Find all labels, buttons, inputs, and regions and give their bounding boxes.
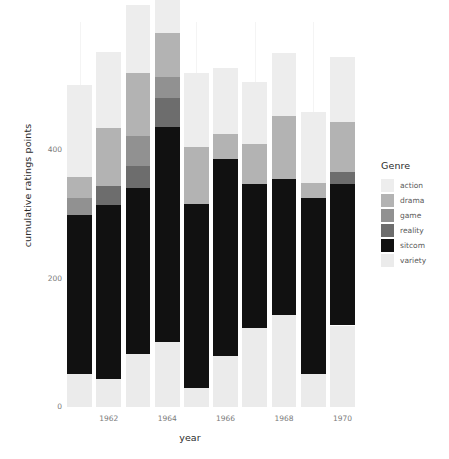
legend-item-reality[interactable]: reality (381, 223, 449, 238)
bar-segment-drama[interactable] (242, 144, 267, 184)
bar-segment-drama[interactable] (184, 147, 209, 204)
bar-segment-variety[interactable] (272, 315, 297, 407)
legend-item-variety[interactable]: variety (381, 253, 449, 268)
bar-segment-sitcom[interactable] (213, 159, 238, 357)
bar-segment-drama[interactable] (213, 134, 238, 158)
bar-segment-reality[interactable] (330, 172, 355, 185)
legend-label: sitcom (400, 241, 425, 250)
bar-segment-reality[interactable] (155, 98, 180, 128)
bar-segment-variety[interactable] (67, 374, 92, 407)
bar-segment-drama[interactable] (330, 122, 355, 171)
legend: Genre actiondramagamerealitysitcomvariet… (381, 160, 449, 268)
y-axis-title: cumulative ratings points (22, 111, 33, 261)
bar-segment-variety[interactable] (301, 374, 326, 407)
bar-segment-variety[interactable] (242, 328, 267, 407)
bar-segment-sitcom[interactable] (272, 179, 297, 315)
bar-stack[interactable] (184, 22, 209, 407)
x-tick-label: 1966 (206, 414, 246, 423)
bar-stack[interactable] (272, 22, 297, 407)
legend-item-game[interactable]: game (381, 208, 449, 223)
legend-items: actiondramagamerealitysitcomvariety (381, 178, 449, 268)
bar-segment-action[interactable] (184, 73, 209, 147)
x-tick-label: 1964 (147, 414, 187, 423)
bar-segment-variety[interactable] (330, 326, 355, 407)
bar-segment-drama[interactable] (96, 128, 121, 186)
bar-stack[interactable] (96, 22, 121, 407)
legend-label: variety (400, 256, 426, 265)
bar-stack[interactable] (126, 22, 151, 407)
bar-stack[interactable] (242, 22, 267, 407)
legend-title: Genre (381, 160, 449, 171)
bar-segment-action[interactable] (301, 112, 326, 183)
bar-segment-action[interactable] (96, 52, 121, 128)
bar-segment-sitcom[interactable] (96, 205, 121, 379)
bar-segment-sitcom[interactable] (242, 184, 267, 328)
legend-label: action (400, 181, 423, 190)
legend-item-drama[interactable]: drama (381, 193, 449, 208)
legend-label: reality (400, 226, 424, 235)
bar-segment-sitcom[interactable] (67, 215, 92, 373)
y-tick-label: 200 (28, 274, 62, 283)
bar-segment-game[interactable] (155, 77, 180, 98)
y-tick-label: 400 (28, 145, 62, 154)
bar-segment-action[interactable] (330, 57, 355, 122)
bar-segment-drama[interactable] (67, 177, 92, 199)
bar-segment-sitcom[interactable] (184, 204, 209, 388)
bar-segment-reality[interactable] (96, 186, 121, 205)
legend-swatch-sitcom (381, 239, 394, 252)
bar-stack[interactable] (330, 22, 355, 407)
chart-canvas: cumulative ratings points year 0200400 1… (0, 0, 449, 459)
bar-segment-drama[interactable] (301, 183, 326, 198)
legend-label: drama (400, 196, 424, 205)
bar-segment-action[interactable] (242, 82, 267, 144)
bar-segment-sitcom[interactable] (301, 198, 326, 374)
x-tick-label: 1962 (89, 414, 129, 423)
bar-stack[interactable] (301, 22, 326, 407)
bar-segment-drama[interactable] (155, 33, 180, 77)
bar-segment-action[interactable] (126, 5, 151, 73)
bar-segment-sitcom[interactable] (155, 127, 180, 342)
bar-segment-drama[interactable] (126, 73, 151, 137)
bar-segment-variety[interactable] (184, 388, 209, 407)
bar-stack[interactable] (213, 22, 238, 407)
bar-segment-game[interactable] (126, 136, 151, 166)
bar-segment-drama[interactable] (272, 116, 297, 180)
bar-stack[interactable] (67, 22, 92, 407)
bar-segment-variety[interactable] (213, 356, 238, 407)
bar-segment-variety[interactable] (155, 342, 180, 407)
bar-segment-action[interactable] (272, 53, 297, 116)
bar-segment-variety[interactable] (96, 379, 121, 407)
legend-label: game (400, 211, 421, 220)
y-tick-label: 0 (28, 402, 62, 411)
legend-swatch-drama (381, 194, 394, 207)
x-tick-label: 1968 (264, 414, 304, 423)
bar-segment-variety[interactable] (126, 354, 151, 407)
bar-segment-action[interactable] (155, 0, 180, 33)
legend-swatch-variety (381, 254, 394, 267)
x-tick-label: 1970 (322, 414, 362, 423)
bar-stack[interactable] (155, 22, 180, 407)
legend-swatch-game (381, 209, 394, 222)
bar-segment-action[interactable] (213, 68, 238, 134)
bar-segment-reality[interactable] (126, 166, 151, 188)
legend-swatch-action (381, 179, 394, 192)
legend-item-action[interactable]: action (381, 178, 449, 193)
bar-segment-action[interactable] (67, 85, 92, 177)
bar-segment-sitcom[interactable] (126, 188, 151, 355)
plot-panel (62, 22, 360, 407)
bar-segment-sitcom[interactable] (330, 184, 355, 325)
x-axis-title: year (0, 432, 380, 443)
legend-item-sitcom[interactable]: sitcom (381, 238, 449, 253)
legend-swatch-reality (381, 224, 394, 237)
bar-segment-game[interactable] (67, 198, 92, 215)
